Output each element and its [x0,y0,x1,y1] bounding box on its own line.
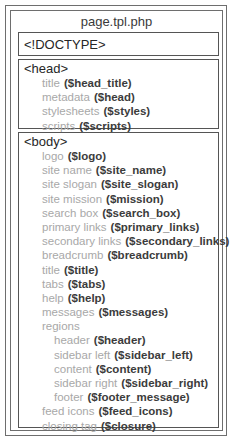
body-item-regions: regions [19,319,218,333]
item-variable: ($styles) [104,105,151,117]
item-label: regions [42,320,80,332]
item-variable: ($content) [96,363,152,375]
diagram-title: page.tpl.php [10,14,223,29]
head-items: title($head_title) metadata($head) style… [19,76,218,133]
body-item-breadcrumb: breadcrumb($breadcrumb) [19,248,218,262]
item-label: site slogan [42,178,97,190]
item-variable: ($site_name) [96,164,166,176]
item-label: tabs [42,278,64,290]
body-tag: <body> [24,134,67,149]
item-label: feed icons [42,405,94,417]
body-item-site-slogan: site slogan($site_slogan) [19,177,218,191]
item-label: closing tag [42,420,97,432]
body-item-secondary-links: secondary links($secondary_links) [19,234,218,248]
body-item-feed-icons: feed icons($feed_icons) [19,404,218,418]
body-item-search-box: search box($search_box) [19,206,218,220]
item-label: footer [54,391,83,403]
item-variable: ($footer_message) [87,391,189,403]
head-item-scripts: scripts($scripts) [19,119,218,133]
item-label: messages [42,306,94,318]
item-label: secondary links [42,235,121,247]
item-label: site mission [42,193,102,205]
head-item-stylesheets: stylesheets($styles) [19,104,218,118]
body-items: logo($logo) site name($site_name) site s… [19,149,218,433]
item-variable: ($logo) [68,150,106,162]
body-item-tabs: tabs($tabs) [19,277,218,291]
item-variable: ($help) [68,292,106,304]
item-label: scripts [42,120,75,132]
body-item-primary-links: primary links($primary_links) [19,220,218,234]
region-item-footer: footer($footer_message) [19,390,218,404]
head-item-title: title($head_title) [19,76,218,90]
item-variable: ($closure) [101,420,156,432]
item-variable: ($site_slogan) [101,178,178,190]
item-label: title [42,77,60,89]
item-label: metadata [42,91,90,103]
region-item-sidebar-left: sidebar left($sidebar_left) [19,348,218,362]
item-label: help [42,292,64,304]
item-variable: ($breadcrumb) [107,249,188,261]
item-variable: ($messages) [98,306,168,318]
doctype-tag: <!DOCTYPE> [24,37,106,52]
body-item-site-mission: site mission($mission) [19,192,218,206]
item-variable: ($sidebar_right) [121,377,208,389]
item-variable: ($header) [94,334,146,346]
body-item-messages: messages($messages) [19,305,218,319]
region-item-sidebar-right: sidebar right($sidebar_right) [19,376,218,390]
item-variable: ($head_title) [64,77,132,89]
doctype-box: <!DOCTYPE> [18,32,219,56]
item-variable: ($mission) [106,193,164,205]
item-variable: ($head) [94,91,135,103]
item-label: logo [42,150,64,162]
head-box: <head> title($head_title) metadata($head… [18,59,219,129]
body-item-title: title($title) [19,263,218,277]
item-label: stylesheets [42,105,100,117]
item-label: title [42,264,60,276]
body-item-help: help($help) [19,291,218,305]
item-variable: ($primary_links) [111,221,200,233]
body-item-logo: logo($logo) [19,149,218,163]
item-variable: ($secondary_links) [125,235,229,247]
item-label: site name [42,164,92,176]
body-item-site-name: site name($site_name) [19,163,218,177]
item-variable: ($feed_icons) [98,405,172,417]
item-label: primary links [42,221,107,233]
body-box: <body> logo($logo) site name($site_name)… [18,132,219,428]
item-variable: ($tabs) [68,278,106,290]
item-variable: ($scripts) [79,120,131,132]
item-label: content [54,363,92,375]
region-item-content: content($content) [19,362,218,376]
region-item-header: header($header) [19,333,218,347]
item-label: header [54,334,90,346]
item-variable: ($sidebar_left) [114,349,193,361]
head-tag: <head> [24,61,68,76]
item-label: breadcrumb [42,249,103,261]
item-label: sidebar right [54,377,117,389]
head-item-metadata: metadata($head) [19,90,218,104]
body-item-closing-tag: closing tag($closure) [19,419,218,433]
item-variable: ($title) [64,264,99,276]
item-variable: ($search_box) [102,207,180,219]
item-label: search box [42,207,98,219]
item-label: sidebar left [54,349,110,361]
